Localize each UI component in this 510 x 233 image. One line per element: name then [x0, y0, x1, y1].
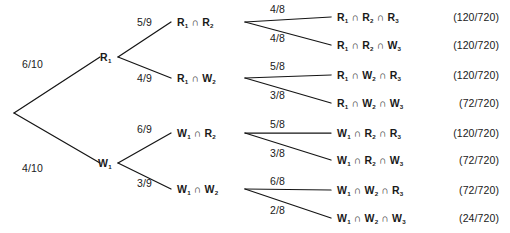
- leaf-probability-W1R2W3: (72/720): [437, 155, 499, 166]
- node-label-R1W2: R1∩W2: [177, 73, 216, 84]
- edge-R1W2-R1W2R3: [245, 75, 331, 78]
- branch-prob-W1R2: 6/9: [137, 124, 152, 135]
- edge-R1W2-R1W2W3: [245, 78, 331, 103]
- branch-prob-R1R2W3: 4/8: [270, 33, 285, 44]
- edge-R1R2-R1R2R3: [245, 17, 331, 22]
- leaf-probability-R1R2W3: (120/720): [437, 40, 499, 51]
- edge-W1W2-W1W2R3: [245, 189, 331, 190]
- branch-prob-R1: 6/10: [22, 59, 43, 70]
- node-label-W1W2: W1∩W2: [177, 184, 218, 195]
- leaf-outcome-W1W2W3: W1∩W2∩W3: [337, 213, 406, 224]
- branch-prob-W1W2R3: 6/8: [270, 176, 285, 187]
- leaf-outcome-W1R2W3: W1∩R2∩W3: [337, 155, 404, 166]
- node-label-W1R2: W1∩R2: [177, 128, 216, 139]
- tree-edges: [0, 0, 510, 233]
- branch-prob-W1R2R3: 5/8: [270, 119, 285, 130]
- branch-prob-W1W2: 3/9: [137, 178, 152, 189]
- branch-prob-W1: 4/10: [22, 163, 43, 174]
- node-label-R1R2: R1∩R2: [177, 17, 214, 28]
- edge-W1R2-W1R2W3: [245, 133, 331, 160]
- leaf-probability-R1W2R3: (120/720): [437, 70, 499, 81]
- node-label-W1: W1: [98, 158, 112, 169]
- edge-W1W2-W1W2W3: [245, 189, 331, 218]
- branch-prob-R1W2W3: 3/8: [270, 90, 285, 101]
- leaf-outcome-W1R2R3: W1∩R2∩R3: [337, 128, 401, 139]
- branch-prob-R1W2: 4/9: [137, 73, 152, 84]
- leaf-outcome-R1R2R3: R1∩R2∩R3: [337, 12, 399, 23]
- branch-prob-R1W2R3: 5/8: [270, 61, 285, 72]
- edge-W1-W1R2: [118, 133, 171, 163]
- branch-prob-R1R2: 5/9: [137, 17, 152, 28]
- edge-root-W1: [14, 113, 100, 163]
- leaf-probability-W1R2R3: (120/720): [437, 128, 499, 139]
- leaf-probability-R1W2W3: (72/720): [437, 98, 499, 109]
- branch-prob-W1R2W3: 3/8: [270, 148, 285, 159]
- leaf-outcome-R1R2W3: R1∩R2∩W3: [337, 40, 401, 51]
- node-label-R1: R1: [100, 52, 111, 63]
- probability-tree-diagram: R16/10W14/10R1∩R25/9R1∩W24/9W1∩R26/9W1∩W…: [0, 0, 510, 233]
- leaf-outcome-R1W2R3: R1∩W2∩R3: [337, 70, 401, 81]
- edge-R1R2-R1R2W3: [245, 22, 331, 45]
- branch-prob-W1W2W3: 2/8: [270, 205, 285, 216]
- leaf-outcome-W1W2R3: W1∩W2∩R3: [337, 185, 404, 196]
- leaf-probability-W1W2R3: (72/720): [437, 185, 499, 196]
- leaf-probability-W1W2W3: (24/720): [437, 213, 499, 224]
- leaf-outcome-R1W2W3: R1∩W2∩W3: [337, 98, 404, 109]
- branch-prob-R1R2R3: 4/8: [270, 4, 285, 15]
- leaf-probability-R1R2R3: (120/720): [437, 12, 499, 23]
